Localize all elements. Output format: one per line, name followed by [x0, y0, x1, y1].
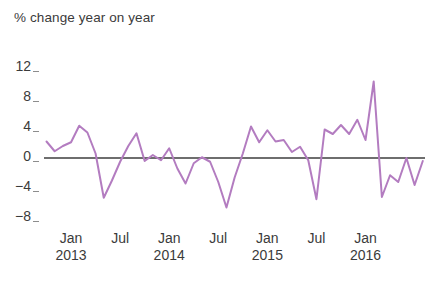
x-axis-tick-month: Jul	[111, 230, 129, 246]
x-axis-tick-month: Jan	[256, 230, 279, 246]
x-axis-tick-month: Jan	[354, 230, 377, 246]
x-axis-tick-label: Jul	[307, 230, 325, 247]
x-axis-tick-label: Jul	[111, 230, 129, 247]
x-axis-tick-year: 2016	[350, 247, 381, 264]
x-axis-tick-month: Jul	[209, 230, 227, 246]
x-axis-tick-year: 2013	[55, 247, 86, 264]
series-line-%-change-year-on-year	[47, 82, 423, 208]
x-axis-tick-month: Jan	[158, 230, 181, 246]
x-axis-tick-label: Jan2013	[55, 230, 86, 264]
x-axis-tick-year: 2015	[252, 247, 283, 264]
x-axis-tick-month: Jan	[60, 230, 83, 246]
x-axis-tick-month: Jul	[307, 230, 325, 246]
x-axis-tick-year: 2014	[154, 247, 185, 264]
x-axis-tick-label: Jan2016	[350, 230, 381, 264]
x-axis-tick-label: Jan2014	[154, 230, 185, 264]
chart-container: % change year on year 12840−4−8 Jan2013J…	[0, 0, 425, 281]
x-axis-tick-label: Jul	[209, 230, 227, 247]
data-series-line	[47, 82, 423, 208]
x-axis-tick-label: Jan2015	[252, 230, 283, 264]
